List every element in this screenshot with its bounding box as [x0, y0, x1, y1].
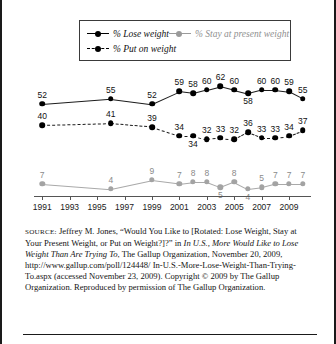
data-label: 36: [243, 119, 252, 128]
data-point: [218, 184, 223, 189]
data-label: 7: [300, 171, 305, 180]
data-label: 34: [284, 123, 293, 132]
data-point: [149, 177, 154, 182]
x-axis-label: 1997: [115, 202, 134, 212]
data-point: [245, 90, 251, 96]
x-axis-tick: [125, 196, 126, 200]
data-label: 59: [175, 78, 184, 87]
data-label: 4: [108, 176, 113, 185]
line-segment: [111, 99, 152, 105]
data-label: 60: [229, 77, 238, 86]
chart-legend: % Lose weight % Stay at present weight %…: [79, 20, 291, 61]
data-point: [177, 133, 183, 139]
source-line-2b: In U.S., More: [184, 238, 231, 248]
legend-item-stay-present-weight: % Stay at present weight: [169, 29, 289, 39]
x-axis-label: 2009: [280, 202, 299, 212]
data-label: 34: [175, 123, 184, 132]
legend-marker-lose-weight-icon: [87, 29, 109, 38]
x-axis-label: 2005: [225, 202, 244, 212]
x-axis-label: 1995: [88, 202, 107, 212]
data-label: 52: [147, 91, 156, 100]
source-line-7: Reproduced by permission of The Gallup O…: [74, 282, 265, 292]
data-label: 59: [284, 78, 293, 87]
data-label: 39: [147, 114, 156, 123]
data-point: [177, 89, 183, 95]
data-label: 7: [40, 171, 45, 180]
x-axis-label: 2003: [197, 202, 216, 212]
data-point: [108, 121, 114, 127]
data-point: [149, 124, 155, 130]
legend-row-1: % Lose weight % Stay at present weight: [87, 26, 283, 41]
data-point: [231, 137, 237, 143]
data-point: [190, 179, 195, 184]
data-point: [259, 184, 264, 189]
legend-marker-put-on-weight-icon: [87, 44, 109, 53]
x-axis-tick: [234, 196, 235, 200]
data-label: 55: [106, 86, 115, 95]
data-point: [273, 181, 278, 186]
legend-marker-stay-present-weight-icon: [169, 29, 191, 38]
data-label: 7: [287, 171, 292, 180]
data-label: 33: [257, 125, 266, 134]
data-label: 58: [188, 80, 197, 89]
data-point: [273, 87, 279, 93]
x-axis-tick: [262, 196, 263, 200]
legend-label-lose-weight: % Lose weight: [113, 29, 169, 39]
data-label: 33: [216, 125, 225, 134]
data-point: [259, 87, 265, 93]
data-label: 58: [243, 97, 252, 106]
x-axis-label: 1991: [33, 202, 52, 212]
source-line-1: Jeffrey M. Jones, “Would You Like to [Ro…: [59, 226, 271, 236]
line-segment: [42, 123, 111, 126]
line-segment: [42, 99, 111, 105]
data-label: 55: [298, 86, 307, 95]
data-label: 40: [37, 112, 46, 121]
data-point: [286, 181, 291, 186]
data-label: 60: [257, 77, 266, 86]
data-label: 5: [259, 174, 264, 183]
data-label: 62: [216, 73, 225, 82]
bottom-rule: [23, 334, 317, 335]
data-point: [300, 128, 306, 134]
data-point: [286, 89, 292, 95]
x-axis-tick: [152, 196, 153, 200]
legend-label-put-on-weight: % Put on weight: [113, 44, 176, 54]
data-point: [245, 186, 250, 191]
data-point: [259, 135, 265, 141]
data-point: [149, 101, 155, 107]
data-label: 8: [204, 169, 209, 178]
data-point: [286, 133, 292, 139]
x-axis-line: [34, 196, 311, 197]
data-point: [39, 101, 45, 107]
legend-row-2: % Put on weight: [87, 41, 283, 56]
data-point: [190, 90, 196, 96]
data-label: 7: [177, 171, 182, 180]
legend-label-stay-present-weight: % Stay at present weight: [195, 29, 289, 39]
data-label: 32: [229, 126, 238, 135]
data-point: [218, 83, 224, 89]
data-point: [39, 122, 45, 128]
data-label: 32: [202, 126, 211, 135]
data-point: [231, 87, 237, 93]
data-label: 33: [271, 125, 280, 134]
source-note: source: Jeffrey M. Jones, “Would You Lik…: [25, 226, 315, 294]
x-axis-label: 1993: [60, 202, 79, 212]
data-point: [204, 87, 210, 93]
data-label: 9: [150, 167, 155, 176]
x-axis-tick: [42, 196, 43, 200]
data-point: [108, 186, 113, 191]
line-segment: [111, 180, 152, 190]
figure-panel: % Lose weight % Stay at present weight %…: [0, 0, 336, 344]
x-axis-tick: [207, 196, 208, 200]
line-segment: [111, 123, 152, 128]
chart-plot-area: 5255525958606260586060595540413934343233…: [2, 68, 336, 198]
data-point: [40, 181, 45, 186]
data-point: [177, 181, 182, 186]
x-axis-label: 2001: [170, 202, 189, 212]
line-segment: [42, 184, 111, 190]
data-label: 8: [191, 169, 196, 178]
data-point: [300, 181, 305, 186]
data-point: [190, 133, 196, 139]
line-segment: [152, 180, 180, 185]
data-label: 41: [106, 110, 115, 119]
